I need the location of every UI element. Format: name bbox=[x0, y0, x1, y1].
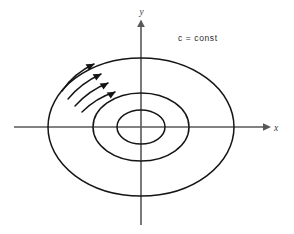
flow-arrows-group bbox=[62, 64, 116, 112]
x-axis-label: x bbox=[273, 123, 279, 133]
axes-group: x y bbox=[14, 7, 279, 225]
phase-portrait-figure: x y bbox=[0, 0, 294, 234]
y-axis-label: y bbox=[138, 7, 144, 17]
y-axis-arrowhead-icon bbox=[137, 20, 145, 28]
phase-portrait-canvas: x y bbox=[0, 0, 294, 234]
x-axis-arrowhead-icon bbox=[263, 123, 271, 131]
flow-arrow-1 bbox=[62, 64, 95, 91]
level-curve-annotation: c = const bbox=[178, 33, 218, 43]
